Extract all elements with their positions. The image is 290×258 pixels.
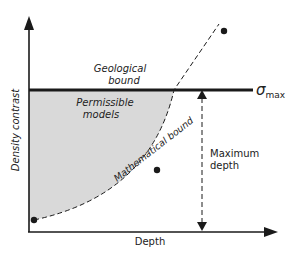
max-depth-label: Maximum	[210, 148, 259, 159]
x-axis-arrow-icon	[264, 227, 278, 237]
sigma-max-label: σmax	[256, 81, 286, 100]
geological-bound-label: Geological	[94, 63, 147, 74]
data-point-low	[31, 217, 37, 223]
permissible-models-label: Permissible	[76, 97, 133, 108]
density-depth-diagram: Geological bound Permissible models Math…	[0, 0, 290, 258]
x-axis-label: Depth	[135, 236, 165, 247]
data-point-high	[221, 28, 227, 34]
y-axis-label: Density contrast	[10, 88, 21, 172]
permissible-models-label-2: models	[83, 109, 119, 120]
y-axis-arrow-icon	[24, 16, 34, 30]
data-point-mid	[154, 167, 160, 173]
geological-bound-label-2: bound	[108, 75, 140, 86]
max-depth-label-2: depth	[210, 160, 239, 171]
max-depth-down-arrow-icon	[197, 222, 207, 231]
